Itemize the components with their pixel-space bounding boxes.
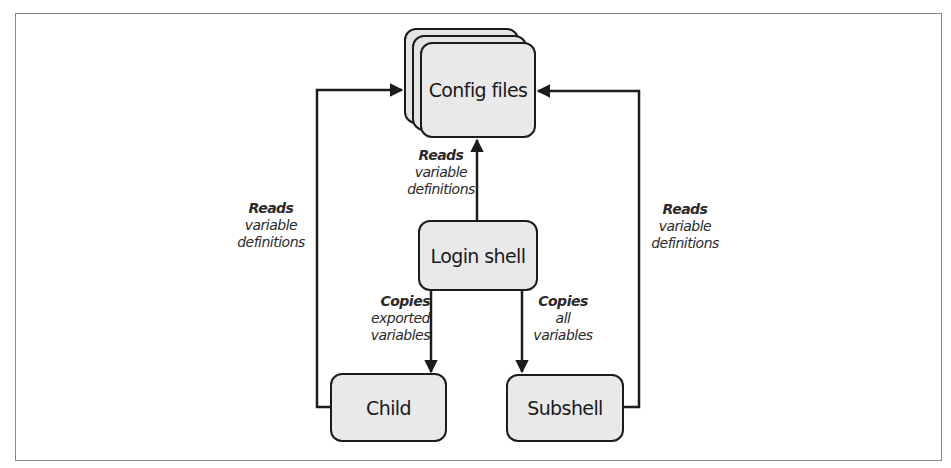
- edge-label-login-to-config: Reads variable definitions: [396, 147, 486, 198]
- edge-text-2: variables: [527, 327, 599, 344]
- edge-action: Copies: [527, 293, 599, 310]
- edge-label-child-to-config: Reads variable definitions: [226, 200, 316, 251]
- edge-action: Reads: [226, 200, 316, 217]
- login-shell-node: Login shell: [418, 220, 538, 291]
- arrow-child-to-config: [317, 90, 402, 407]
- edge-action: Reads: [396, 147, 486, 164]
- config-files-label: Config files: [429, 79, 528, 101]
- config-files-node: Config files: [420, 42, 536, 138]
- edge-text-2: definitions: [396, 181, 486, 198]
- edge-text-2: definitions: [226, 234, 316, 251]
- edge-text-2: definitions: [640, 235, 730, 252]
- edge-label-login-to-subshell: Copies all variables: [527, 293, 599, 344]
- edge-label-subshell-to-config: Reads variable definitions: [640, 201, 730, 252]
- edge-text-1: variable: [640, 218, 730, 235]
- edge-action: Copies: [360, 293, 430, 310]
- login-shell-label: Login shell: [431, 245, 526, 267]
- edge-text-1: exported: [360, 310, 430, 327]
- edge-text-2: variables: [360, 327, 430, 344]
- child-node: Child: [330, 373, 447, 442]
- child-label: Child: [366, 397, 411, 419]
- edge-text-1: all: [527, 310, 599, 327]
- arrow-subshell-to-config: [538, 91, 639, 407]
- subshell-node: Subshell: [506, 374, 624, 442]
- edge-action: Reads: [640, 201, 730, 218]
- edge-text-1: variable: [396, 164, 486, 181]
- edge-label-login-to-child: Copies exported variables: [360, 293, 430, 344]
- edge-text-1: variable: [226, 217, 316, 234]
- subshell-label: Subshell: [527, 397, 603, 419]
